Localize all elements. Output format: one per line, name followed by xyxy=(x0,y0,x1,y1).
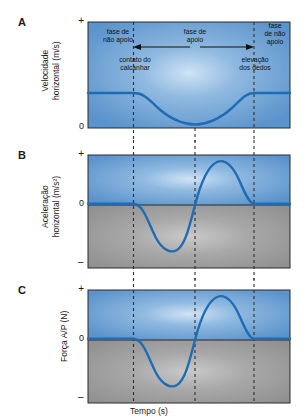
annotation-toe-off: elevação dos dedos xyxy=(226,56,284,72)
panel-c-y-axis-label: Força A/P (N) xyxy=(59,281,70,391)
annotation-left-non-support: fase de não apoio xyxy=(92,28,144,44)
panel-b-y-axis-label-line1: Aceleração xyxy=(40,185,50,228)
panel-c-tick-negative: − xyxy=(70,391,84,403)
panel-letter-b: B xyxy=(18,149,26,161)
panel-c-positive-region xyxy=(88,290,290,340)
gait-cycle-figure: A Velocidade horizontal (m/s) + 0 xyxy=(0,0,304,416)
annotation-heel-contact: contato do calcanhar xyxy=(106,56,164,72)
panel-b-tick-negative: − xyxy=(70,256,84,268)
annotation-right-non-support: fase de não apoio xyxy=(256,22,294,46)
panel-letter-c: C xyxy=(18,284,26,296)
panel-b-tick-zero: 0 xyxy=(70,198,84,208)
panel-b-tick-positive: + xyxy=(70,148,84,159)
panel-c-tick-zero: 0 xyxy=(70,333,84,343)
panel-b-negative-region xyxy=(88,205,290,268)
panel-b-y-axis-label-line2: horizontal (m/s²) xyxy=(51,176,61,237)
panel-b-y-axis-label: Aceleração horizontal (m/s²) xyxy=(40,152,61,262)
panel-b-positive-region xyxy=(88,155,290,205)
annotation-support-phase: fase de apoio xyxy=(168,28,222,44)
panel-c-negative-region xyxy=(88,340,290,403)
panel-c-tick-positive: + xyxy=(70,283,84,294)
panel-c-plot xyxy=(88,278,290,403)
panel-c-y-axis-label-line1: Força A/P (N) xyxy=(59,311,69,362)
panel-b-plot xyxy=(88,140,290,280)
x-axis-label: Tempo (s) xyxy=(109,406,189,416)
